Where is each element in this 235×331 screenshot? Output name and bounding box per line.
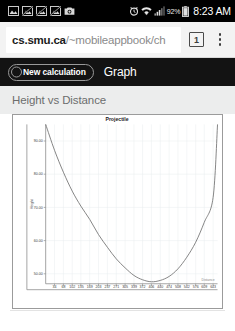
chart-curve: [46, 124, 218, 281]
x-tick-label: 474: [166, 286, 172, 290]
chart-title: Projectile: [105, 116, 128, 122]
alarm-icon: [129, 6, 139, 16]
chart-x-tick-labels: 3468102135169203237271305339372406440474…: [53, 286, 217, 290]
x-tick-label: 440: [157, 286, 163, 290]
x-tick-label: 576: [193, 286, 199, 290]
x-tick-label: 406: [148, 286, 154, 290]
chart-svg: Projectile Height Distance 50.0060.0070.…: [13, 115, 222, 308]
x-tick-label: 34: [53, 286, 57, 290]
url-input[interactable]: cs.smu.ca/~mobileappbook/ch: [6, 27, 181, 53]
broken-image-icon: [22, 6, 33, 16]
x-tick-label: 372: [140, 286, 146, 290]
chart-x-axis-label: Distance: [201, 278, 214, 282]
broken-image-icon: [50, 6, 61, 16]
y-tick-label: 90.00: [34, 139, 43, 143]
tab-count-button[interactable]: 1: [189, 32, 204, 47]
x-tick-label: 203: [96, 286, 102, 290]
battery-icon: [182, 6, 189, 17]
x-tick-label: 68: [61, 286, 65, 290]
status-system-icons: 92% 8:23 AM: [129, 5, 231, 17]
projectile-chart[interactable]: Projectile Height Distance 50.0060.0070.…: [13, 115, 222, 308]
y-tick-label: 60.00: [34, 239, 43, 243]
x-tick-label: 237: [104, 286, 110, 290]
menu-dot: [219, 33, 222, 36]
x-tick-label: 508: [175, 286, 181, 290]
browser-toolbar: cs.smu.ca/~mobileappbook/ch 1: [0, 22, 235, 58]
x-tick-label: 271: [113, 286, 119, 290]
y-tick-label: 80.00: [34, 172, 43, 176]
status-notification-icons: [8, 6, 75, 16]
card-bottom-divider: [10, 310, 225, 311]
x-tick-label: 102: [69, 286, 75, 290]
phone-screen: 92% 8:23 AM cs.smu.ca/~mobileappbook/ch …: [0, 0, 235, 331]
x-tick-label: 339: [131, 286, 137, 290]
menu-dot: [219, 43, 222, 46]
y-tick-label: 70.00: [34, 206, 43, 210]
x-tick-label: 609: [201, 286, 207, 290]
tab-graph[interactable]: Graph: [104, 65, 137, 79]
battery-percent-label: 92%: [167, 8, 180, 15]
chart-card: Projectile Height Distance 50.0060.0070.…: [12, 114, 223, 309]
x-tick-label: 169: [87, 286, 93, 290]
signal-icon: [154, 6, 165, 16]
url-path: /~mobileappbook/ch: [66, 34, 166, 46]
chart-tick-marks: [44, 141, 213, 286]
x-tick-label: 135: [78, 286, 84, 290]
url-host: cs.smu.ca: [12, 34, 66, 46]
overflow-menu-icon[interactable]: [211, 28, 229, 52]
menu-dot: [219, 38, 222, 41]
image-icon: [8, 6, 19, 16]
y-tick-label: 50.00: [34, 272, 43, 276]
page-title: Height vs Distance: [12, 94, 106, 106]
chart-gridlines: [46, 124, 218, 283]
wifi-icon: [141, 6, 152, 16]
new-calculation-button[interactable]: New calculation: [8, 64, 94, 81]
clock-label: 8:23 AM: [191, 5, 231, 17]
chart-y-tick-labels: 50.0060.0070.0080.0090.00: [34, 139, 43, 276]
page-heading: Height vs Distance: [0, 86, 235, 114]
x-tick-label: 643: [210, 286, 216, 290]
broken-image-icon: [36, 6, 47, 16]
camera-icon: [64, 6, 75, 16]
x-tick-label: 542: [184, 286, 190, 290]
status-bar: 92% 8:23 AM: [0, 0, 235, 22]
x-tick-label: 305: [122, 286, 128, 290]
app-action-bar: New calculation Graph: [0, 58, 235, 86]
